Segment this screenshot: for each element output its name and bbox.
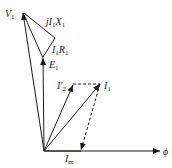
label-v1: V1 bbox=[5, 8, 15, 21]
i1-phasor bbox=[44, 84, 100, 151]
label-ji1x1: jI1X1 bbox=[44, 16, 66, 29]
i1-im-dashed bbox=[81, 84, 100, 150]
label-phi: ϕ bbox=[163, 146, 168, 157]
label-i1: I1 bbox=[103, 80, 111, 93]
i2-prime-phasor bbox=[44, 85, 73, 151]
phasor-diagram: V1 jI1X1 I1R1 E1 I'2 I1 Im ϕ bbox=[0, 0, 172, 168]
v1-phasor bbox=[23, 13, 44, 151]
label-e1: E1 bbox=[48, 59, 59, 72]
label-im: Im bbox=[64, 153, 74, 166]
label-i2-prime: I'2 bbox=[56, 80, 66, 93]
e1-phasor bbox=[43, 58, 44, 151]
label-i1r1: I1R1 bbox=[51, 44, 69, 57]
